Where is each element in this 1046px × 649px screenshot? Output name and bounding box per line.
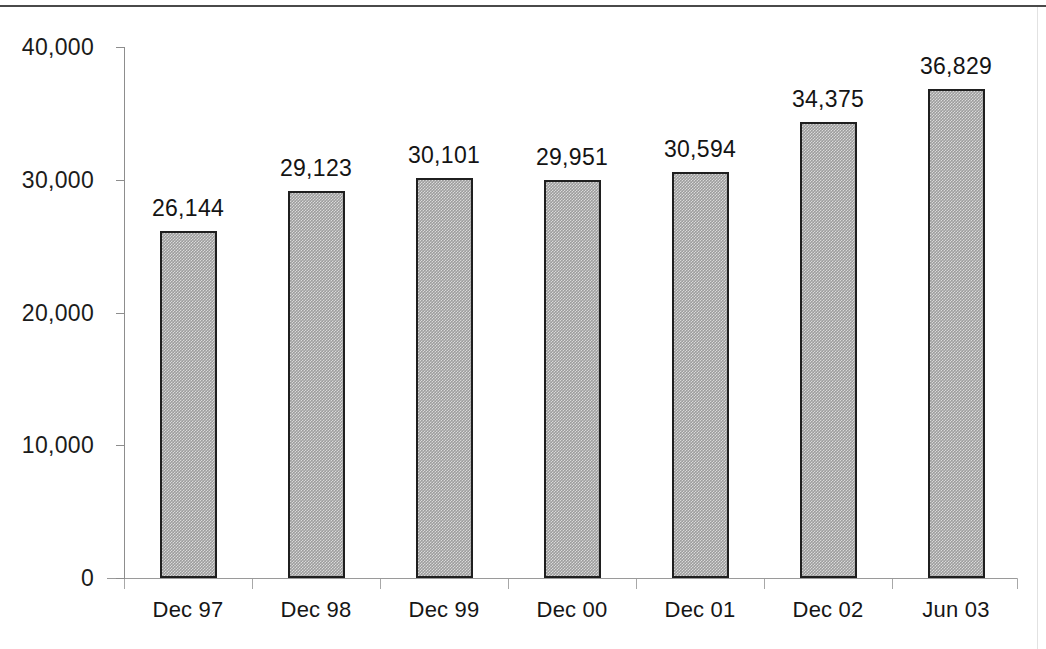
bar-value-label: 34,375: [758, 86, 898, 113]
bar-value-label: 36,829: [886, 53, 1026, 80]
x-category-label: Dec 02: [758, 597, 898, 623]
x-tick-mark: [892, 579, 893, 589]
y-axis-label-30000: 30,000: [22, 167, 94, 194]
x-tick-mark: [124, 579, 125, 589]
x-category-label: Jun 03: [886, 597, 1026, 623]
y-axis-label-0: 0: [81, 565, 94, 592]
x-tick-mark: [380, 579, 381, 589]
y-axis-label-10000: 10,000: [22, 432, 94, 459]
bar-value-label: 29,123: [246, 155, 386, 182]
y-axis-label-20000: 20,000: [22, 300, 94, 327]
x-category-label: Dec 99: [374, 597, 514, 623]
x-category-label: Dec 00: [502, 597, 642, 623]
bar-value-label: 30,594: [630, 136, 770, 163]
bar-dec-97[interactable]: [160, 231, 217, 578]
x-tick-mark: [1017, 579, 1018, 589]
y-tick-mark: [116, 313, 125, 314]
x-tick-mark: [252, 579, 253, 589]
bar-value-label: 30,101: [374, 142, 514, 169]
bar-value-label: 29,951: [502, 144, 642, 171]
bar-dec-02[interactable]: [800, 122, 857, 578]
x-category-label: Dec 98: [246, 597, 386, 623]
x-tick-mark: [636, 579, 637, 589]
plot-area: 40,000 30,000 20,000 10,000 0 26,144 29,…: [0, 0, 1046, 649]
bar-dec-00[interactable]: [544, 180, 601, 578]
x-tick-mark: [764, 579, 765, 589]
x-axis-line: [107, 578, 1018, 579]
bar-value-label: 26,144: [118, 195, 258, 222]
y-tick-mark: [116, 445, 125, 446]
bar-chart-figure: 40,000 30,000 20,000 10,000 0 26,144 29,…: [0, 0, 1046, 649]
bar-dec-98[interactable]: [288, 191, 345, 578]
y-tick-mark: [116, 180, 125, 181]
y-axis-label-40000: 40,000: [22, 34, 94, 61]
x-category-label: Dec 01: [630, 597, 770, 623]
bar-jun-03[interactable]: [928, 89, 985, 578]
bar-dec-01[interactable]: [672, 172, 729, 578]
bar-dec-99[interactable]: [416, 178, 473, 578]
y-tick-mark: [116, 47, 125, 48]
x-tick-mark: [508, 579, 509, 589]
x-category-label: Dec 97: [118, 597, 258, 623]
